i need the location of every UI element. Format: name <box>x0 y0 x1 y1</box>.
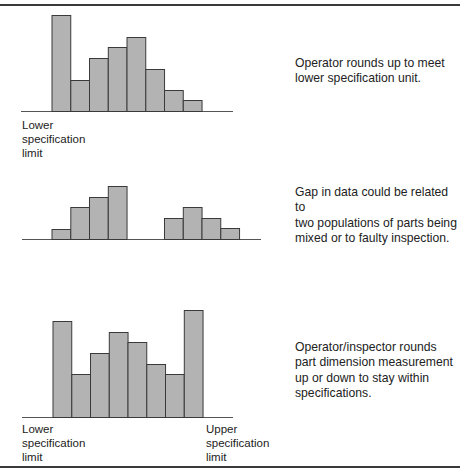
note-chart-2: Gap in data could be related to two popu… <box>295 185 460 246</box>
histogram-bar <box>184 311 203 418</box>
histogram-bar <box>147 365 166 418</box>
histogram-bar <box>221 229 240 240</box>
histogram-bar <box>127 38 146 112</box>
histogram-bar <box>71 208 90 240</box>
histogram-both-limits <box>22 311 233 418</box>
histogram-bar <box>108 187 127 240</box>
histogram-bar <box>165 91 184 112</box>
histogram-bar <box>108 48 127 112</box>
upper-spec-limit-label-3: Upper specification limit <box>206 422 269 464</box>
histogram-bar <box>183 101 202 112</box>
histogram-bar <box>146 70 165 112</box>
note-chart-3: Operator/inspector rounds part dimension… <box>295 340 460 401</box>
histogram-bar <box>202 219 221 240</box>
histogram-bar <box>91 354 110 418</box>
histogram-bar <box>52 230 71 240</box>
histogram-bar <box>53 322 72 418</box>
histogram-bar <box>90 59 109 112</box>
note-chart-1: Operator rounds up to meet lower specifi… <box>295 56 460 87</box>
histogram-bar <box>52 16 71 112</box>
lower-spec-limit-label-3: Lower specification limit <box>22 422 85 464</box>
histogram-lower-skew <box>21 16 233 112</box>
histogram-bar <box>128 343 147 418</box>
bottom-rule <box>0 466 460 468</box>
histogram-bar <box>90 198 109 240</box>
histogram-bar <box>72 375 91 418</box>
histogram-bimodal-gap <box>22 187 261 240</box>
histogram-bar <box>109 333 128 418</box>
histogram-bar <box>166 375 185 418</box>
histogram-bar <box>71 81 90 112</box>
lower-spec-limit-label-1: Lower specification limit <box>22 118 85 160</box>
histogram-bar <box>165 219 184 240</box>
histogram-bar <box>183 208 202 240</box>
